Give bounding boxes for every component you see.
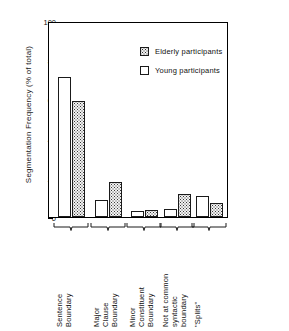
bar-elderly-4 [210, 203, 223, 217]
bar-elderly-3 [178, 194, 191, 217]
x-axis-label-line: syntactic [170, 274, 179, 327]
bar-young-2 [131, 211, 144, 217]
x-axis-label-line: Constituent [137, 287, 146, 327]
x-axis-label-line: Sentence [55, 293, 64, 327]
legend-label-young: Young participants [155, 66, 220, 75]
bar-young-1 [95, 200, 108, 217]
bar-elderly-1 [109, 182, 122, 217]
legend-swatch-young-icon [140, 66, 149, 75]
category-brace-0 [53, 223, 89, 231]
bar-group-sentence-boundary [58, 23, 85, 217]
x-axis-label-line: "Splits" [193, 302, 202, 327]
legend-entry-young: Young participants [140, 63, 222, 78]
y-axis-title: Segmentation Frequency (% of total) [24, 25, 33, 205]
x-axis-label-line: Clause [101, 293, 110, 327]
category-brace-3 [159, 223, 195, 231]
bar-elderly-2 [145, 210, 158, 217]
legend: Elderly participants Young participants [140, 44, 222, 82]
bar-group-major-clause-boundary [95, 23, 122, 217]
category-brace-1 [90, 223, 126, 231]
x-axis-label-line: Boundary [64, 293, 73, 327]
bar-chart-figure: Segmentation Frequency (% of total) 100 … [0, 0, 289, 331]
bar-elderly-0 [72, 101, 85, 217]
bar-young-0 [58, 77, 71, 217]
legend-swatch-elderly-icon [140, 47, 149, 56]
bar-young-4 [196, 196, 209, 217]
category-brace-2 [126, 223, 162, 231]
y-tick-major-0 [48, 218, 53, 219]
x-axis-label-line: Boundary [146, 287, 155, 327]
x-axis-label-line: Major [92, 293, 101, 327]
category-brace-4 [191, 223, 227, 231]
x-axis-label-line: Minor [128, 287, 137, 327]
legend-label-elderly: Elderly participants [155, 47, 222, 56]
x-axis-label-splits: "Splits" [193, 236, 285, 328]
x-axis-label-line: Not at common [161, 274, 170, 327]
legend-entry-elderly: Elderly participants [140, 44, 222, 59]
x-axis-label-line: Boundary [110, 293, 119, 327]
bar-young-3 [164, 209, 177, 217]
x-axis-label-line: boundary [179, 274, 188, 327]
